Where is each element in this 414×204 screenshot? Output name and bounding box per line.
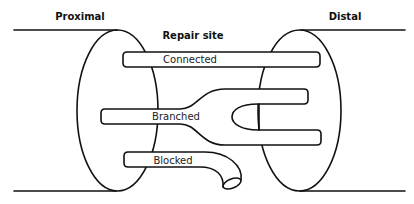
connected-label: Connected [163, 54, 217, 65]
distal-label: Distal [329, 11, 362, 22]
blocked-label: Blocked [153, 155, 192, 166]
branched-tube [101, 89, 321, 145]
nerve-repair-diagram: Proximal Distal Repair site Connected Br… [0, 0, 414, 204]
connected-tube [123, 52, 320, 67]
repair-site-label: Repair site [162, 30, 223, 41]
proximal-label: Proximal [55, 11, 105, 22]
branched-label: Branched [152, 111, 200, 122]
